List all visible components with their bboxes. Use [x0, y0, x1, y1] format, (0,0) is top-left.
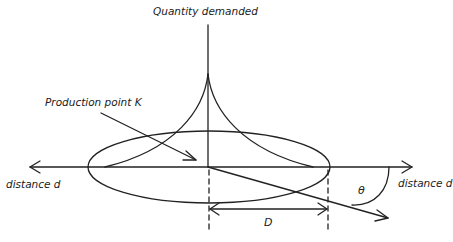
production-point-arrowhead-icon: [183, 151, 196, 160]
x-axis-left-label: distance d: [6, 179, 61, 190]
demand-curve-right: [208, 74, 313, 167]
demand-curve-left: [105, 74, 208, 167]
distance-D-label: D: [264, 217, 272, 228]
theta-label: θ: [358, 185, 365, 196]
y-axis-label: Quantity demanded: [153, 6, 258, 17]
x-axis-right-label: distance d: [398, 178, 453, 189]
production-point-label: Production point K: [45, 97, 142, 108]
production-point-arrow: [101, 113, 196, 160]
